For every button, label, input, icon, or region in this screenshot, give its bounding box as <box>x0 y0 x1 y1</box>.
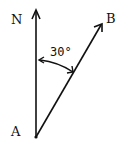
north-arrow <box>32 10 40 137</box>
point-b-label: B <box>106 11 116 26</box>
north-label: N <box>11 12 22 27</box>
point-a-label: A <box>10 124 21 139</box>
bearing-arrow-ab <box>36 24 102 137</box>
bearing-diagram: N A B 30° <box>0 0 124 141</box>
angle-label: 30° <box>50 45 72 59</box>
angle-arc <box>39 57 73 73</box>
point-a-dot <box>34 135 37 138</box>
